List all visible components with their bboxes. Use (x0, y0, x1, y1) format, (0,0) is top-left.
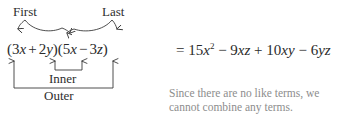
outer-label: Outer (44, 89, 74, 102)
binomial-term4-coeff: 3 (89, 41, 97, 57)
result-term1-coeff: 15 (188, 42, 203, 58)
first-arrow-left (25, 20, 62, 31)
binomial-term3-var: x (70, 41, 77, 57)
result-operator-3: − (298, 42, 306, 58)
result-term4-var: yz (318, 42, 331, 58)
explanatory-note: Since there are no like terms, we cannot… (169, 86, 337, 114)
last-arrow-to-2y (67, 29, 74, 33)
inner-label: Inner (49, 72, 76, 85)
result-operator-1: − (218, 42, 226, 58)
last-arrow-left-arc (74, 20, 112, 31)
binomial-expression: (3x+2y)(5x−3z) (7, 40, 108, 59)
result-term3-var: xy (281, 42, 294, 58)
last-arrow-to-3z (112, 20, 117, 29)
result-equals-sign: = (176, 42, 184, 58)
result-term4-coeff: 6 (311, 42, 319, 58)
inner-bracket (55, 61, 82, 70)
result-expression: = 15x2 − 9xz + 10xy − 6yz (176, 41, 331, 60)
binomial-operator-2: − (77, 41, 89, 57)
result-term3-coeff: 10 (266, 42, 281, 58)
foil-diagram-figure: First Last (3x+2y)(5x−3z) Inner Outer = … (0, 0, 337, 122)
result-term1-exponent: 2 (210, 41, 215, 51)
note-line-2: cannot combine any terms. (169, 100, 337, 114)
binomial-close-paren-2: ) (103, 41, 108, 57)
first-label: First (13, 5, 37, 18)
binomial-term1-coeff: 3 (12, 41, 20, 57)
note-line-1: Since there are no like terms, we (169, 86, 337, 100)
first-arrow-to-5x (62, 28, 70, 33)
last-label: Last (102, 5, 124, 18)
result-term1-var: x (203, 42, 210, 58)
result-term2-var: xz (238, 42, 251, 58)
binomial-term2-var: y (46, 41, 53, 57)
binomial-operator-1: + (26, 41, 38, 57)
result-term2-coeff: 9 (230, 42, 238, 58)
result-operator-2: + (254, 42, 262, 58)
first-arrow-to-3x (18, 20, 25, 29)
